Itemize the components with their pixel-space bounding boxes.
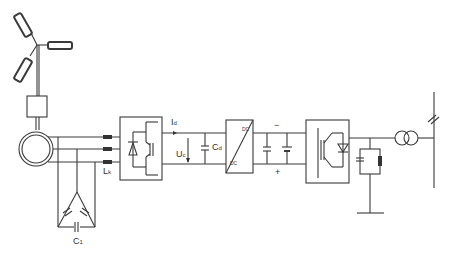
generator-icon <box>19 132 53 166</box>
label-plus: + <box>275 168 280 177</box>
label-c1: C1 <box>73 237 83 246</box>
capacitor-cd-icon <box>201 133 209 164</box>
filter-rl-icon <box>356 149 382 174</box>
generator-side-converter-icon <box>120 117 162 180</box>
turbine-rotor-icon <box>14 13 72 96</box>
label-id: Id <box>171 118 177 127</box>
label-minus: − <box>274 121 279 130</box>
capacitor-icon <box>263 133 271 164</box>
capacitor-bank-c1-icon <box>58 137 95 232</box>
wind-turbine-converter-diagram <box>0 0 454 263</box>
label-dc-top: DC <box>242 127 249 132</box>
label-lk: Lk <box>103 167 111 176</box>
inductor-lk-icon <box>103 135 112 164</box>
label-cd: Cd <box>212 143 222 152</box>
gearbox-icon <box>27 96 47 117</box>
transformer-icon <box>395 131 418 145</box>
battery-icon <box>282 133 292 164</box>
label-uc: Uc <box>176 150 186 159</box>
label-dc-bottom: DC <box>230 161 237 166</box>
grid-side-inverter-icon <box>306 120 349 183</box>
